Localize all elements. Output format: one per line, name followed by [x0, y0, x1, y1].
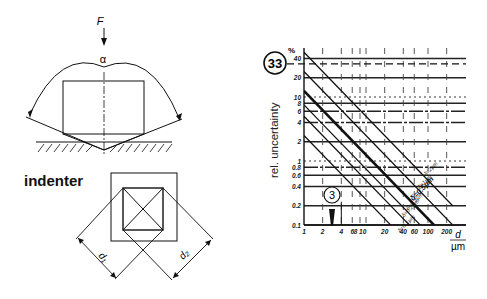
x-tick-label: 60	[411, 228, 419, 235]
x-tick-label: 2	[320, 228, 325, 235]
y-tick-label: 40	[293, 55, 302, 62]
x-tick-label: 20	[380, 228, 389, 235]
x-tick-label: 4	[339, 228, 344, 235]
y-tick-label: 8	[297, 100, 301, 107]
figure-stage: F α	[0, 0, 487, 299]
chart-grid	[287, 48, 466, 225]
series-line	[304, 136, 453, 289]
y-axis-label: rel. uncertainty	[268, 58, 284, 178]
y-tick-label: 0.2	[292, 202, 301, 209]
y-tick-label: 0.8	[292, 164, 301, 171]
uncertainty-chart: 402010864210.80.60.40.20.112468 10204060…	[0, 0, 487, 299]
y-tick-label: 20	[293, 74, 302, 81]
y-tick-label: 2	[296, 138, 301, 145]
x-unit: µm	[451, 241, 465, 252]
x-tick-label: 1	[302, 228, 306, 235]
x-tick-label: 200	[440, 228, 452, 235]
marker-arrow-icon	[329, 209, 335, 226]
y-tick-label: 0.6	[292, 172, 301, 179]
y-tick-label: 0.1	[292, 222, 301, 229]
x-label: d	[455, 229, 461, 240]
y-tick-label: 6	[297, 108, 301, 115]
x-tick-label: 100	[423, 228, 434, 235]
y-tick-label: 4	[296, 119, 301, 126]
x-tick-label: 8 10	[354, 228, 367, 235]
y-tick-label: 0.4	[292, 183, 301, 190]
series-label: δ=2µm	[422, 160, 438, 177]
series-line	[304, 72, 453, 225]
y-unit: %	[288, 46, 295, 55]
callout-number: 3	[329, 189, 335, 201]
